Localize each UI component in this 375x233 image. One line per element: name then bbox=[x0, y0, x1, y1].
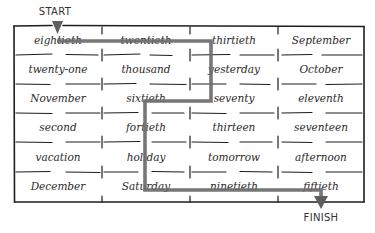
cell: afternoon bbox=[295, 151, 347, 163]
cell: December bbox=[30, 180, 87, 192]
cell: yesterday bbox=[207, 63, 261, 75]
word-maze: eightieth twentieth thirtieth September … bbox=[0, 0, 375, 233]
cell: seventeen bbox=[294, 121, 348, 133]
maze-vertical-ticks bbox=[102, 27, 278, 202]
maze-border bbox=[14, 26, 364, 203]
finish-label: FINISH bbox=[304, 212, 339, 223]
cell: second bbox=[39, 121, 77, 133]
start-arrow-icon bbox=[52, 21, 63, 34]
cell: thirtieth bbox=[212, 34, 256, 46]
cell: October bbox=[300, 63, 344, 75]
cell: seventy bbox=[214, 92, 256, 104]
cell: thousand bbox=[121, 63, 170, 75]
cell: November bbox=[29, 92, 87, 104]
cell: thirteen bbox=[213, 121, 256, 133]
start-label: START bbox=[39, 6, 72, 17]
cell: eleventh bbox=[298, 92, 344, 104]
cell: tomorrow bbox=[208, 151, 260, 163]
cell: twenty-one bbox=[28, 63, 87, 75]
cell: September bbox=[292, 34, 351, 46]
cell: vacation bbox=[36, 151, 81, 163]
